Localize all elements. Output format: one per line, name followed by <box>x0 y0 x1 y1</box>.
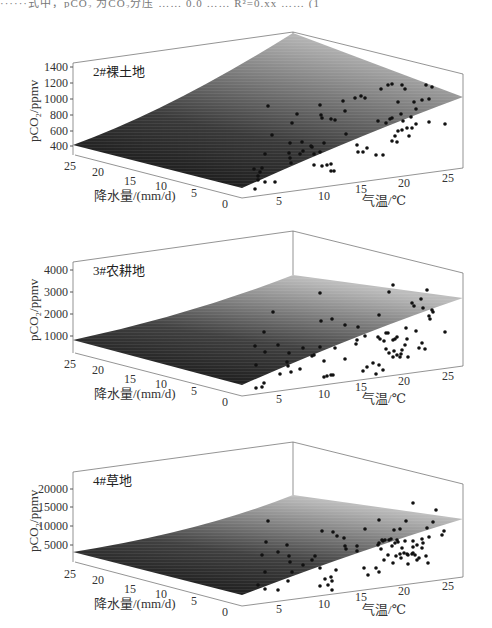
panel-grassland: 20000 15000 10000 5000 pCO₂/ppmv 4#草地 25… <box>0 415 492 628</box>
panel-farmland: 4000 3000 2000 1000 pCO₂/ppmv 3#农耕地 25 2… <box>0 215 492 415</box>
z-axis-label: pCO₂/ppmv <box>26 79 41 142</box>
svg-text:3000: 3000 <box>44 285 68 299</box>
z-axis-label: pCO₂/ppmv <box>26 278 41 341</box>
svg-text:25: 25 <box>442 369 454 383</box>
svg-text:15000: 15000 <box>38 500 68 514</box>
panel-title: 3#农耕地 <box>93 263 145 278</box>
svg-text:5: 5 <box>191 594 197 608</box>
svg-text:25: 25 <box>442 579 454 593</box>
svg-text:10: 10 <box>318 189 330 203</box>
temp-axis-label: 气温/℃ <box>362 391 406 406</box>
panel-title: 2#裸土地 <box>93 64 145 79</box>
svg-text:600: 600 <box>50 124 68 138</box>
svg-text:15: 15 <box>124 582 136 596</box>
svg-text:0: 0 <box>222 605 228 619</box>
svg-text:5: 5 <box>276 194 282 208</box>
svg-text:15: 15 <box>124 174 136 188</box>
svg-text:10: 10 <box>318 597 330 611</box>
svg-text:400: 400 <box>50 139 68 153</box>
precip-axis-label: 降水量/(mm/d) <box>94 386 176 401</box>
precip-axis-label: 降水量/(mm/d) <box>94 188 176 203</box>
svg-text:5: 5 <box>191 186 197 200</box>
svg-text:25: 25 <box>442 171 454 185</box>
svg-text:1400: 1400 <box>44 60 68 74</box>
svg-text:4000: 4000 <box>44 263 68 277</box>
fitted-surface <box>73 275 463 385</box>
z-axis: 20000 15000 10000 5000 <box>38 482 73 552</box>
temp-axis-label: 气温/℃ <box>362 602 406 617</box>
z-axis: 4000 3000 2000 1000 <box>44 263 73 343</box>
svg-text:20: 20 <box>92 363 104 377</box>
precip-axis-label: 降水量/(mm/d) <box>94 596 176 611</box>
z-axis: 1400 1200 1000 800 600 400 <box>44 60 73 153</box>
svg-text:0: 0 <box>222 197 228 211</box>
svg-text:20: 20 <box>398 584 410 598</box>
svg-text:5: 5 <box>191 384 197 398</box>
svg-text:2000: 2000 <box>44 307 68 321</box>
panel-title: 4#草地 <box>93 473 132 488</box>
svg-text:20: 20 <box>398 374 410 388</box>
z-axis-label: pCO₂/ppmv <box>26 489 41 552</box>
svg-text:25: 25 <box>64 159 76 173</box>
svg-text:20: 20 <box>92 165 104 179</box>
svg-text:20: 20 <box>92 573 104 587</box>
svg-text:0: 0 <box>222 395 228 409</box>
fitted-surface <box>73 33 463 188</box>
svg-text:1000: 1000 <box>44 329 68 343</box>
svg-text:15: 15 <box>124 372 136 386</box>
svg-text:25: 25 <box>64 567 76 581</box>
svg-text:10000: 10000 <box>38 519 68 533</box>
temp-axis-label: 气温/℃ <box>362 193 406 208</box>
svg-text:25: 25 <box>64 357 76 371</box>
svg-text:20000: 20000 <box>38 482 68 496</box>
svg-text:800: 800 <box>50 108 68 122</box>
svg-text:5: 5 <box>276 392 282 406</box>
svg-text:5: 5 <box>276 602 282 616</box>
svg-text:20: 20 <box>398 176 410 190</box>
svg-text:1000: 1000 <box>44 92 68 106</box>
svg-text:10: 10 <box>318 387 330 401</box>
fitted-surface <box>73 495 463 595</box>
panel-bare-soil: 1400 1200 1000 800 600 400 pCO₂/ppmv 2#裸… <box>0 0 492 215</box>
svg-text:1200: 1200 <box>44 76 68 90</box>
svg-text:5000: 5000 <box>44 538 68 552</box>
